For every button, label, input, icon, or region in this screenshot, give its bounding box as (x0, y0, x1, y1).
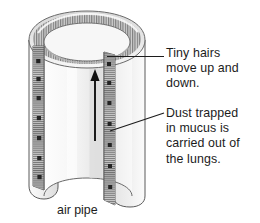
tube-inner-surface (44, 46, 132, 196)
caption-air-pipe: air pipe (57, 203, 147, 217)
annotation-dust-mucus: Dust trapped in mucus is carried out of … (166, 106, 260, 167)
tube-top-rim (29, 11, 145, 68)
annotation-tiny-hairs: Tiny hairs move up and down. (166, 46, 258, 92)
figure-container: Tiny hairs move up and down. Dust trappe… (0, 0, 260, 223)
cilia-band-left (32, 44, 45, 194)
cilia-band-right (103, 50, 116, 208)
